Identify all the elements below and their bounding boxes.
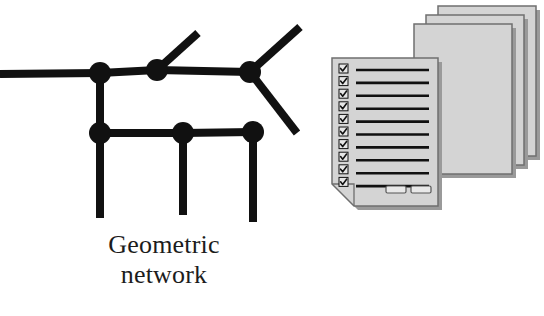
geometric-network-panel: Geometric network — [0, 0, 320, 316]
edge-main-east — [157, 70, 250, 72]
logical-network-panel: Logical network — [318, 0, 544, 316]
node-junction-west[interactable] — [89, 62, 111, 84]
node-tee-upper-mid[interactable] — [146, 59, 168, 81]
document-button-2[interactable] — [411, 186, 431, 193]
node-tee-lower-mid[interactable] — [172, 122, 194, 144]
figure-canvas: Geometric network Logical network — [0, 0, 544, 316]
node-fork-east[interactable] — [239, 61, 261, 83]
node-junction-lower-west[interactable] — [89, 122, 111, 144]
geometric-network-caption: Geometric network — [64, 230, 264, 289]
geometric-network-diagram — [0, 0, 320, 240]
edge-main-west — [0, 73, 100, 74]
node-endpoint-lower-east[interactable] — [242, 121, 264, 143]
document-stack-illustration — [318, 0, 544, 240]
document-button-1[interactable] — [386, 186, 406, 193]
